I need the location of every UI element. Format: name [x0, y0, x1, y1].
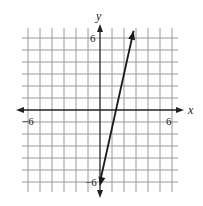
y-axis-label: y — [95, 9, 102, 23]
line-series — [100, 31, 134, 182]
y-axis-top-arrow-icon — [97, 24, 103, 32]
x-axis-label: x — [187, 103, 194, 117]
x-tick-label-neg6: −6 — [22, 115, 34, 127]
coordinate-plane: x y −6 6 6 −6 — [0, 0, 203, 206]
x-axis-right-arrow-icon — [176, 107, 184, 113]
x-axis-left-arrow-icon — [16, 107, 24, 113]
y-tick-label-6: 6 — [90, 32, 96, 44]
plotted-line — [98, 31, 135, 186]
y-tick-label-neg6: −6 — [85, 176, 97, 188]
y-axis-bottom-arrow-icon — [97, 190, 103, 198]
x-tick-label-6: 6 — [166, 115, 172, 127]
